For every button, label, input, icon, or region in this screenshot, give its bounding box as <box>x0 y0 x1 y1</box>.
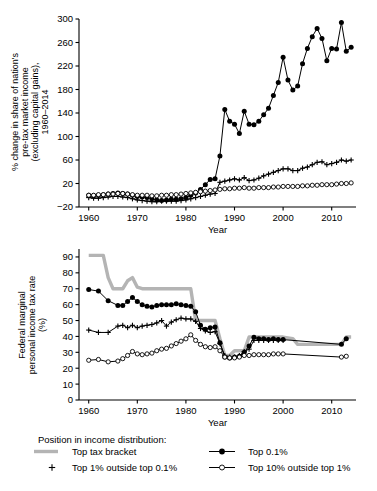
x-tick-label-marginal-tax-rate: 2000 <box>273 405 294 416</box>
y-axis-title-marginal-tax-rate: Federal marginalpersonal income tax rate… <box>17 276 47 375</box>
figure-container: −202060100140180220260300196019701980199… <box>0 0 377 491</box>
data-point-open <box>135 193 139 197</box>
data-point-open <box>101 193 105 197</box>
data-point-open <box>237 355 241 359</box>
data-point-open <box>184 337 188 341</box>
data-point-filled <box>237 131 242 136</box>
y-tick-label-share-change: 260 <box>57 37 73 48</box>
series-path <box>89 23 351 201</box>
data-point-open <box>179 339 183 343</box>
data-point-open <box>140 353 144 357</box>
data-point-open <box>223 187 227 191</box>
data-point-open <box>242 353 246 357</box>
y-axis-title-line: Federal marginal <box>17 291 27 359</box>
data-point-open <box>213 188 217 192</box>
data-point-filled <box>295 83 300 88</box>
legend: Position in income distribution:Top tax … <box>34 434 351 473</box>
y-axis-title-line: pre-tax market income <box>20 67 30 157</box>
legend-label: Top 10% outside top 1% <box>248 462 351 473</box>
data-point-open <box>271 185 275 189</box>
data-point-open <box>126 353 130 357</box>
data-point-filled <box>169 302 174 307</box>
data-point-open <box>184 191 188 195</box>
data-point-open <box>252 353 256 357</box>
x-tick-label-share-change: 1980 <box>175 212 196 223</box>
data-point-filled <box>266 106 271 111</box>
x-tick-label-share-change: 1970 <box>127 212 148 223</box>
data-point-filled <box>329 46 334 51</box>
data-point-filled <box>174 301 179 306</box>
data-point-filled <box>217 153 222 158</box>
y-axis-title-line: (excluding capital gains), <box>30 62 40 161</box>
two-panel-line-chart: −202060100140180220260300196019701980199… <box>0 0 377 491</box>
data-point-filled <box>159 302 164 307</box>
data-point-open <box>150 351 154 355</box>
data-point-open <box>266 353 270 357</box>
data-point-filled <box>334 46 339 51</box>
y-axis-title-line: % change in share of nation's <box>10 53 20 171</box>
data-point-filled <box>310 34 315 39</box>
data-point-open <box>247 186 251 190</box>
data-point-filled <box>96 289 101 294</box>
data-point-open <box>208 188 212 192</box>
data-point-filled <box>339 342 344 347</box>
legend-title: Position in income distribution: <box>38 434 166 445</box>
data-point-open <box>194 190 198 194</box>
data-point-open <box>232 356 236 360</box>
data-point-open <box>237 186 241 190</box>
data-point-open <box>174 341 178 345</box>
data-point-open <box>189 191 193 195</box>
y-tick-label-share-change: 100 <box>57 131 73 142</box>
legend-item-top-10-outside-top-1-[interactable]: Top 10% outside top 1% <box>209 462 351 473</box>
data-point-filled <box>183 303 188 308</box>
data-point-filled <box>247 122 252 127</box>
data-point-filled <box>344 336 349 341</box>
data-point-open <box>228 187 232 191</box>
x-tick-label-marginal-tax-rate: 1970 <box>127 405 148 416</box>
data-point-open <box>257 353 261 357</box>
data-point-filled <box>344 49 349 54</box>
data-point-filled <box>106 298 111 303</box>
series-top-0-1- <box>86 20 353 203</box>
data-point-open <box>91 193 95 197</box>
data-point-open <box>203 345 207 349</box>
data-point-filled <box>149 305 154 310</box>
x-axis-title-share-change: Year <box>208 224 227 235</box>
data-point-filled <box>120 303 125 308</box>
panel-marginal-tax-rate: 0102030405060708090196019701980199020002… <box>17 249 356 428</box>
data-point-open <box>150 194 154 198</box>
y-tick-label-share-change: −20 <box>57 201 73 212</box>
x-tick-label-share-change: 1960 <box>78 212 99 223</box>
legend-item-top-1-outside-top-0-1-[interactable]: Top 1% outside top 0.1% <box>49 462 178 473</box>
data-point-filled <box>232 122 237 127</box>
data-point-open <box>257 186 261 190</box>
x-tick-label-share-change: 1990 <box>224 212 245 223</box>
data-point-open <box>291 184 295 188</box>
data-point-open <box>232 186 236 190</box>
data-point-filled <box>208 177 213 182</box>
data-point-open <box>266 186 270 190</box>
series-top-1-outside-top-0-1- <box>86 157 354 204</box>
data-point-filled <box>251 122 256 127</box>
data-point-open <box>135 352 139 356</box>
data-point-open <box>208 345 212 349</box>
data-point-filled <box>256 119 261 124</box>
data-point-filled <box>222 107 227 112</box>
y-tick-label-share-change: 300 <box>57 13 73 24</box>
data-point-filled <box>115 303 120 308</box>
data-point-filled <box>208 325 213 330</box>
data-point-open <box>276 352 280 356</box>
data-point-open <box>325 183 329 187</box>
data-point-open <box>194 338 198 342</box>
data-point-open <box>203 189 207 193</box>
data-point-filled <box>135 299 140 304</box>
legend-marker-open-circle <box>220 465 225 470</box>
y-tick-label-marginal-tax-rate: 70 <box>62 283 73 294</box>
legend-label: Top tax bracket <box>72 446 137 457</box>
legend-item-top-0-1-[interactable]: Top 0.1% <box>209 446 288 457</box>
data-point-filled <box>213 324 218 329</box>
data-point-open <box>155 194 159 198</box>
y-tick-label-share-change: 60 <box>62 154 73 165</box>
legend-item-top-tax-bracket[interactable]: Top tax bracket <box>34 446 137 457</box>
legend-marker-filled-circle <box>219 449 225 455</box>
